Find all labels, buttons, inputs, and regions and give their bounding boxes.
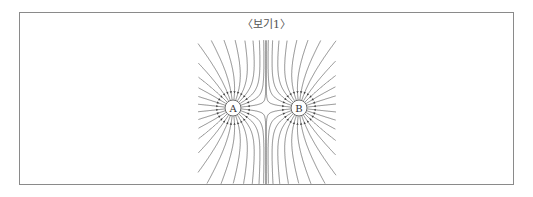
field-line (285, 41, 295, 101)
field-line (292, 40, 297, 100)
arrow-icon (293, 122, 295, 124)
field-line (305, 114, 336, 141)
field-line (240, 113, 260, 184)
field-line (306, 113, 335, 130)
arrow-icon (216, 109, 218, 111)
field-lines (198, 40, 336, 184)
field-line (297, 40, 308, 100)
field-line (272, 113, 292, 184)
field-line (199, 77, 228, 102)
field-line (238, 41, 248, 101)
arrow-icon (245, 98, 247, 100)
arrow-icon (296, 123, 298, 125)
field-line (238, 115, 248, 184)
field-line (285, 115, 295, 184)
arrow-icon (314, 109, 316, 111)
charge-label: A (228, 103, 237, 114)
arrow-icon (314, 105, 316, 107)
field-line (198, 104, 225, 107)
charge-b: B (291, 100, 307, 116)
field-line (239, 41, 254, 102)
charge-label: B (295, 103, 302, 114)
field-line (278, 114, 293, 184)
field-line (235, 40, 240, 100)
field-line (198, 115, 228, 153)
field-line (305, 76, 336, 103)
arrow-icon (237, 92, 239, 94)
field-line (272, 40, 292, 103)
charge-a: A (225, 100, 241, 116)
arrow-icon (245, 116, 247, 118)
field-line (207, 116, 232, 183)
arrow-icon (237, 122, 239, 124)
field-line (278, 41, 293, 102)
field-line (241, 40, 264, 105)
field-line (224, 40, 235, 100)
field-line (199, 114, 228, 139)
field-line (300, 116, 325, 183)
arrow-icon (293, 92, 295, 94)
field-line (198, 63, 228, 101)
field-line (307, 104, 336, 107)
field-line (239, 114, 254, 184)
field-line (198, 109, 225, 112)
field-line (306, 87, 335, 104)
arrow-icon (284, 116, 286, 118)
arrow-icon (233, 91, 235, 93)
arrow-icon (284, 98, 286, 100)
field-line (307, 109, 336, 112)
arrow-icon (233, 123, 235, 125)
field-line (240, 40, 260, 103)
field-line (268, 40, 291, 105)
field-lines-diagram: AB (0, 0, 533, 197)
arrow-icon (216, 105, 218, 107)
arrow-icon (296, 91, 298, 93)
